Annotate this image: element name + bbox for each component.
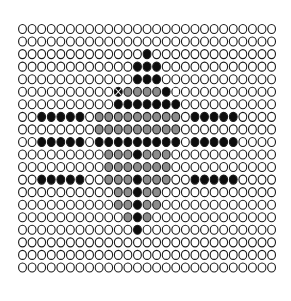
cell-marker-ellipse [268,62,276,71]
grid-cell [153,125,161,134]
cell-marker-ellipse [181,75,189,84]
cell-marker-ellipse [86,250,94,259]
grid-cell [172,175,180,184]
grid-cell [67,225,75,234]
cell-marker-ellipse [67,263,75,272]
cell-marker-ellipse [67,200,75,209]
grid-cell [249,50,257,59]
cell-marker-ellipse [76,163,84,172]
grid-cell [181,100,189,109]
cell-marker-ellipse [201,137,209,146]
grid-cell [239,188,247,197]
cell-marker-ellipse [258,188,266,197]
grid-cell [229,238,237,247]
grid-cell [38,50,46,59]
grid-cell [124,87,132,96]
cell-marker-ellipse [19,188,27,197]
grid-cell [57,25,65,34]
cell-marker-ellipse [124,238,132,247]
grid-cell [38,213,46,222]
grid-cell [143,87,151,96]
grid-cell [67,163,75,172]
grid-cell [67,238,75,247]
cell-marker-ellipse [153,137,161,146]
grid-cell [124,50,132,59]
grid-cell [28,87,36,96]
grid-cell [86,238,94,247]
cell-marker-ellipse [114,238,122,247]
grid-cell [47,200,55,209]
cell-marker-ellipse [67,87,75,96]
grid-cell [134,125,142,134]
grid-cell [67,25,75,34]
cell-marker-ellipse [124,225,132,234]
grid-cell [201,50,209,59]
grid-cell [239,175,247,184]
cell-marker-ellipse [19,62,27,71]
cell-marker-ellipse [76,150,84,159]
cell-marker-ellipse [181,175,189,184]
cell-marker-ellipse [191,100,199,109]
grid-cell [229,250,237,259]
grid-cell [201,238,209,247]
cell-marker-ellipse [268,225,276,234]
grid-cell [47,263,55,272]
grid-cell [76,137,84,146]
grid-cell [220,137,228,146]
cell-marker-ellipse [249,137,257,146]
grid-cell [201,62,209,71]
grid-cell [114,200,122,209]
cell-marker-ellipse [143,125,151,134]
grid-cell [220,225,228,234]
cell-marker-ellipse [172,62,180,71]
grid-cell [114,62,122,71]
grid-cell [47,125,55,134]
cell-marker-ellipse [229,150,237,159]
cell-marker-ellipse [258,62,266,71]
grid-cell [67,125,75,134]
grid-cell [268,250,276,259]
grid-cell [95,100,103,109]
grid-cell [249,100,257,109]
grid-cell [143,225,151,234]
cell-marker-ellipse [47,112,55,121]
grid-cell [57,137,65,146]
grid-cell [181,213,189,222]
cell-marker-ellipse [162,87,170,96]
grid-cell [229,213,237,222]
grid-cell [95,213,103,222]
grid-cell [19,163,27,172]
cell-marker-ellipse [249,225,257,234]
grid-cell [95,150,103,159]
grid-cell [114,163,122,172]
cell-marker-ellipse [143,37,151,46]
grid-cell [239,125,247,134]
grid-cell [143,150,151,159]
grid-cell [143,200,151,209]
cell-marker-ellipse [153,175,161,184]
cell-marker-ellipse [210,137,218,146]
grid-cell [249,200,257,209]
cell-marker-ellipse [86,263,94,272]
cell-marker-ellipse [134,175,142,184]
cell-marker-ellipse [220,125,228,134]
cell-marker-ellipse [86,213,94,222]
cell-marker-ellipse [153,50,161,59]
grid-cell [229,37,237,46]
cell-marker-ellipse [143,238,151,247]
cell-marker-ellipse [210,163,218,172]
grid-cell [134,75,142,84]
grid-cell [239,137,247,146]
grid-cell [47,188,55,197]
grid-cell [220,213,228,222]
grid-cell [38,62,46,71]
cell-marker-ellipse [67,112,75,121]
grid-cell [162,225,170,234]
cell-marker-ellipse [229,188,237,197]
grid-cell [143,213,151,222]
grid-cell [76,250,84,259]
grid-cell [153,175,161,184]
cell-marker-ellipse [105,150,113,159]
grid-cell [38,137,46,146]
grid-cell [28,188,36,197]
